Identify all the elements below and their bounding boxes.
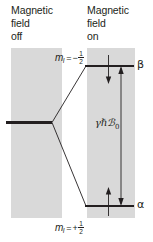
splitting-line-upper [52, 66, 86, 123]
upper-shift-arrow-head [106, 77, 111, 85]
energy-gap-arrow-head-top [118, 66, 123, 74]
upper-mi-sign: − [72, 53, 77, 63]
upper-mi-subscript: I [63, 57, 65, 64]
upper-mi-equals: = [66, 53, 71, 63]
lower-mi-denominator: 2 [78, 227, 84, 235]
energy-gap-label: γℏℬ0 [95, 117, 120, 128]
lower-quantum-number-label: mI=+12 [55, 220, 84, 235]
upper-mi-fraction: 12 [78, 50, 84, 65]
diagram-vectors [0, 0, 153, 242]
splitting-line-lower [52, 123, 86, 207]
energy-gap-symbol: γℏℬ [95, 117, 115, 128]
upper-mi-denominator: 2 [78, 57, 84, 65]
lower-mi-subscript: I [63, 227, 65, 234]
lower-mi-numerator: 1 [78, 220, 84, 227]
lower-mi-fraction: 12 [78, 220, 84, 235]
energy-gap-subscript: 0 [115, 123, 119, 131]
alpha-state-label: α [137, 198, 144, 211]
energy-gap-arrow-head-bottom [118, 198, 123, 206]
upper-quantum-number-label: mI=−12 [55, 50, 84, 65]
lower-mi-sign: + [72, 223, 77, 233]
beta-state-label: β [137, 58, 144, 71]
energy-level-diagram: Magnetic field off Magnetic field on β α… [0, 0, 153, 242]
lower-shift-arrow-head [106, 187, 111, 195]
upper-mi-numerator: 1 [78, 50, 84, 57]
lower-mi-equals: = [66, 223, 71, 233]
